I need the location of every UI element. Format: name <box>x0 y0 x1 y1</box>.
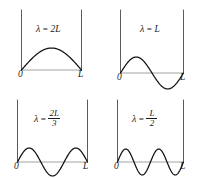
wave-curve-harmonic-1 <box>22 48 82 70</box>
tick-label-right-1: L <box>78 70 83 80</box>
tick-label-right-2: L <box>180 73 185 83</box>
panel-mode-3: 0 L λ = 2L 3 <box>17 100 89 166</box>
equals-symbol-1: = <box>43 24 48 34</box>
lambda-symbol-3: λ <box>34 113 38 124</box>
fraction-numerator-3: 2L <box>48 109 60 119</box>
tick-label-left-3: 0 <box>14 162 19 172</box>
panel-2-plot <box>120 10 186 80</box>
lambda-symbol-2: λ <box>140 23 144 34</box>
equals-symbol-4: = <box>139 114 144 124</box>
lambda-value-1: 2L <box>50 24 60 34</box>
lambda-value-2: L <box>154 24 159 34</box>
lambda-label-3: λ = 2L 3 <box>34 109 60 129</box>
fraction-denominator-3: 3 <box>51 119 58 129</box>
tick-label-left-2: 0 <box>117 73 122 83</box>
tick-label-left-4: 0 <box>114 162 119 172</box>
lambda-fraction-3: 2L 3 <box>48 109 60 129</box>
tick-label-left-1: 0 <box>18 70 23 80</box>
standing-wave-figure: 0 L λ = 2L 0 L λ = L 0 L <box>0 0 199 178</box>
fraction-denominator-4: 2 <box>149 119 156 129</box>
lambda-label-2: λ = L <box>140 23 160 34</box>
equals-symbol-2: = <box>147 24 152 34</box>
panel-mode-2: 0 L λ = L <box>120 10 186 80</box>
equals-symbol-3: = <box>41 114 46 124</box>
lambda-fraction-4: L 2 <box>146 109 157 129</box>
panel-1-plot <box>21 10 83 76</box>
tick-label-right-3: L <box>83 162 88 172</box>
lambda-symbol-4: λ <box>132 113 136 124</box>
tick-label-right-4: L <box>180 162 185 172</box>
lambda-symbol-1: λ <box>36 23 40 34</box>
lambda-label-1: λ = 2L <box>36 23 60 34</box>
panel-mode-1: 0 L λ = 2L <box>21 10 83 76</box>
fraction-numerator-4: L <box>148 109 155 119</box>
lambda-label-4: λ = L 2 <box>132 109 157 129</box>
panel-mode-4: 0 L λ = L 2 <box>117 100 185 166</box>
